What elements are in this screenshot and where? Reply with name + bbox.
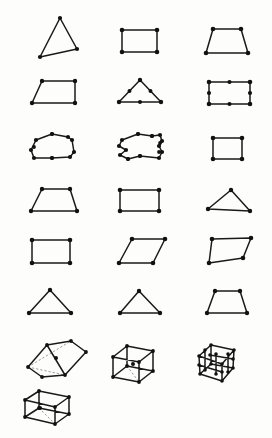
vertex-marker <box>75 209 79 213</box>
vertex-marker <box>231 366 235 370</box>
vertex-marker <box>197 354 201 358</box>
edge-midpoint-marker <box>138 154 142 158</box>
polygon-outline <box>209 82 250 104</box>
edge-midpoint-marker <box>227 102 231 106</box>
figure-rectangle-with-edge-midpoints <box>207 80 253 107</box>
vertex-marker <box>68 238 73 243</box>
figures-layer <box>23 16 253 426</box>
vertex-marker <box>207 80 212 85</box>
vertex-marker <box>210 237 215 242</box>
vertex-marker <box>69 311 73 315</box>
figure-prism-tilted-3d <box>26 339 88 379</box>
visible-edges <box>25 391 69 424</box>
figure-triangle-isosceles-short <box>118 289 162 315</box>
vertex-marker <box>117 261 122 266</box>
polygon-outline <box>32 81 75 103</box>
vertex-marker <box>117 100 121 104</box>
edge-midpoint-marker <box>32 145 36 149</box>
edge-midpoint-marker <box>248 91 252 95</box>
edge-midpoint-marker <box>207 91 211 95</box>
vertex-marker <box>214 372 218 376</box>
vertex-marker <box>232 348 236 352</box>
vertex-marker <box>66 135 70 139</box>
vertex-marker <box>226 370 230 374</box>
vertex-marker <box>151 369 155 373</box>
vertex-marker <box>203 368 207 372</box>
vertex-marker <box>208 353 212 357</box>
edge-midpoint-marker <box>150 134 154 138</box>
vertex-marker <box>155 28 160 33</box>
figure-sheet <box>0 0 272 438</box>
edge-midpoint-marker <box>227 80 231 84</box>
vertex-marker <box>120 138 124 142</box>
polygon-outline <box>29 290 71 313</box>
vertex-marker <box>203 348 207 352</box>
figure-trapezoid-row6 <box>205 289 249 315</box>
edge-midpoint-marker <box>128 89 132 93</box>
figure-quadrilateral-irregular <box>207 236 254 266</box>
figure-trapezoid-wide-base <box>204 27 251 56</box>
vertex-marker <box>163 237 168 242</box>
vertex-marker <box>30 101 34 105</box>
figure-triangle-flat-wide <box>206 188 252 213</box>
figure-quadrilateral-wavy-edges <box>117 132 164 161</box>
vertex-marker <box>130 237 135 242</box>
figure-trapezoid-right-leaning <box>30 79 77 105</box>
vertex-marker <box>69 339 73 343</box>
vertex-marker <box>214 352 218 356</box>
edge-midpoint-marker <box>50 132 54 136</box>
vertex-marker <box>137 380 141 384</box>
vertex-marker <box>246 51 251 56</box>
vertex-marker <box>75 47 79 51</box>
vertex-marker <box>157 188 162 193</box>
center-point-marker <box>54 356 58 360</box>
polygon-outline <box>119 80 161 102</box>
vertex-marker <box>26 365 30 369</box>
vertex-marker <box>38 55 42 59</box>
polygon-outline <box>122 30 157 52</box>
vertex-marker <box>245 311 249 315</box>
vertex-marker <box>137 360 141 364</box>
figure-rectangle-medium <box>30 238 73 266</box>
vertex-marker <box>220 379 224 383</box>
vertex-marker <box>23 415 27 419</box>
vertex-marker <box>48 288 52 292</box>
vertex-marker <box>151 349 155 353</box>
vertex-marker <box>37 389 41 393</box>
vertex-marker <box>229 188 233 192</box>
vertex-marker <box>138 78 142 82</box>
vertex-marker <box>158 133 162 137</box>
vertex-marker <box>29 148 33 152</box>
vertex-marker <box>34 138 38 142</box>
vertex-marker <box>67 412 71 416</box>
vertex-marker <box>118 209 123 214</box>
vertex-marker <box>240 136 245 141</box>
vertex-marker <box>58 16 62 20</box>
polygon-outline <box>120 291 160 313</box>
vertex-marker <box>205 311 209 315</box>
vertex-marker <box>211 157 216 162</box>
vertex-marker <box>241 256 246 261</box>
edge-midpoint-marker <box>158 141 162 145</box>
vertex-marker <box>29 209 33 213</box>
vertex-marker <box>157 156 161 160</box>
figure-parallelogram-slanted <box>117 237 168 266</box>
figure-triangle-with-edge-midpoints <box>117 78 163 104</box>
vertex-marker <box>211 27 216 32</box>
vertex-marker <box>73 79 77 83</box>
vertex-marker <box>226 352 230 356</box>
vertex-marker <box>213 289 217 293</box>
figure-cuboid-flat-3d <box>23 389 71 426</box>
figure-square-small <box>211 136 245 162</box>
vertex-marker <box>72 150 76 154</box>
vertex-marker <box>197 363 201 367</box>
edge-midpoint-marker <box>149 89 153 93</box>
vertex-marker <box>198 372 202 376</box>
vertex-marker <box>248 209 252 213</box>
vertex-marker <box>159 100 163 104</box>
vertex-marker <box>40 375 44 379</box>
vertex-marker <box>238 289 242 293</box>
vertex-marker <box>118 311 122 315</box>
vertex-marker <box>211 136 216 141</box>
vertex-marker <box>151 261 156 266</box>
